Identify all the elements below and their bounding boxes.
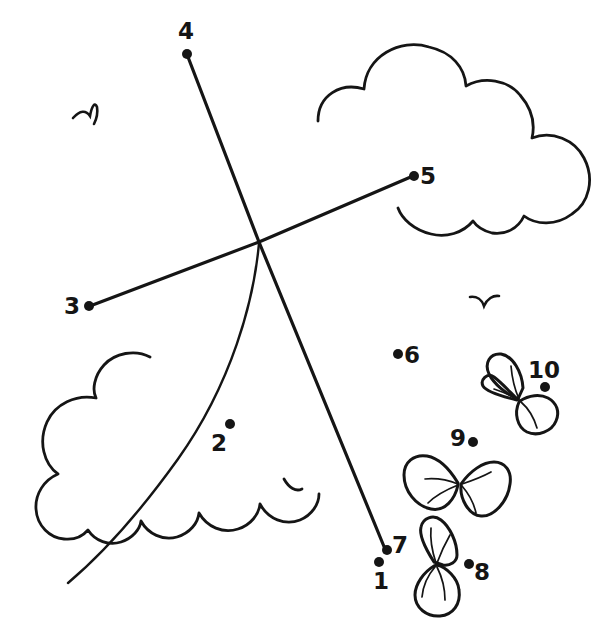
butterfly-upper-vein-3	[521, 402, 537, 428]
cloud-bottom-left	[36, 353, 319, 544]
cloud-top-right-outline	[318, 45, 590, 236]
dot-number-label-10: 10	[528, 359, 560, 382]
dot-marker-4[interactable]	[182, 49, 192, 59]
kite-tail-curve	[68, 243, 259, 583]
butterfly-middle-vein-1	[425, 479, 458, 484]
line-art-artwork	[0, 0, 607, 629]
butterfly-middle-right-wing	[461, 462, 510, 516]
butterfly-middle-left-wing	[404, 456, 458, 510]
butterfly-middle	[404, 456, 510, 516]
cloud-bottom-left-right-hook	[284, 479, 302, 490]
dot-marker-3[interactable]	[84, 301, 94, 311]
cloud-bottom-left-outline	[36, 353, 319, 544]
butterfly-lower	[415, 517, 459, 616]
coloring-page-canvas: 12345678910	[0, 0, 607, 629]
butterfly-lower-vein-4	[437, 567, 445, 600]
dot-marker-7[interactable]	[382, 545, 392, 555]
dot-number-label-4: 4	[178, 20, 194, 43]
dot-number-label-9: 9	[450, 427, 466, 450]
dot-number-label-5: 5	[420, 165, 436, 188]
dot-marker-2[interactable]	[225, 419, 235, 429]
birds	[73, 105, 499, 306]
bird-upper-left	[73, 105, 97, 124]
dot-number-label-7: 7	[392, 534, 408, 557]
cloud-top-right	[318, 45, 590, 236]
kite-line-4-to-1	[188, 57, 385, 549]
dot-marker-9[interactable]	[468, 437, 478, 447]
dot-marker-6[interactable]	[393, 349, 403, 359]
dot-marker-5[interactable]	[409, 171, 419, 181]
dot-marker-10[interactable]	[540, 382, 550, 392]
dot-number-label-3: 3	[64, 295, 80, 318]
butterfly-lower-bottom-wing	[415, 565, 459, 616]
kite-lines	[68, 57, 413, 583]
butterfly-lower-vein-2	[437, 535, 450, 563]
dot-marker-8[interactable]	[464, 559, 474, 569]
bird-middle-right	[470, 296, 499, 306]
dot-number-label-8: 8	[474, 561, 490, 584]
dot-marker-1[interactable]	[374, 557, 384, 567]
dot-number-label-2: 2	[211, 432, 227, 455]
dot-number-label-1: 1	[373, 570, 389, 593]
dot-number-label-6: 6	[404, 344, 420, 367]
